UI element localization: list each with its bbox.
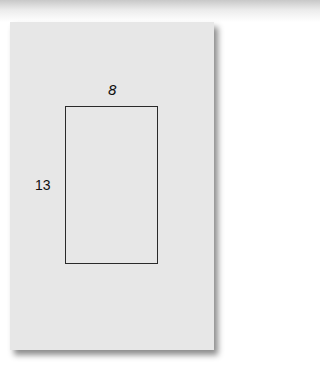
width-label: 8 [108, 82, 117, 98]
rectangle [65, 106, 158, 264]
height-label: 13 [35, 177, 51, 193]
